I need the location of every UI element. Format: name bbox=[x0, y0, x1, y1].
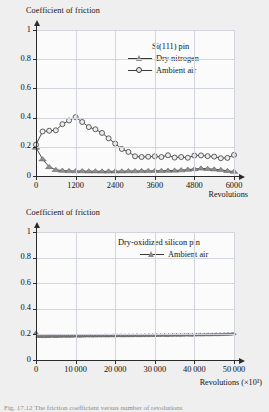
gridline-vertical bbox=[76, 232, 77, 360]
x-axis-tick bbox=[155, 361, 156, 364]
y-axis-tick bbox=[33, 309, 36, 310]
data-point-marker-circle bbox=[106, 136, 111, 141]
data-point-marker-circle bbox=[166, 153, 171, 158]
x-axis-line bbox=[36, 360, 240, 361]
gridline-vertical bbox=[115, 30, 116, 176]
data-point-marker-circle bbox=[100, 130, 105, 135]
y-axis-tick-label: 0.2 bbox=[6, 141, 31, 150]
y-axis-tick-label: 0.4 bbox=[6, 112, 31, 121]
y-axis-arrow-icon bbox=[34, 20, 40, 26]
gridline-vertical bbox=[115, 232, 116, 360]
data-point-marker-circle bbox=[225, 155, 230, 160]
data-point-marker-circle bbox=[212, 154, 217, 159]
gridline-horizontal bbox=[36, 334, 234, 335]
data-point-marker-triangle bbox=[39, 157, 47, 161]
gridline-vertical bbox=[155, 232, 156, 360]
x-axis-tick-label: 30 000 bbox=[143, 365, 166, 374]
y-axis-tick-label: 0.8 bbox=[6, 54, 31, 63]
x-axis-tick bbox=[76, 361, 77, 364]
gridline-horizontal bbox=[36, 232, 234, 233]
y-axis-tick-label: 0.6 bbox=[6, 278, 31, 287]
bottom-chart-legend-title: Dry-oxidized silicon pin bbox=[118, 238, 200, 247]
bottom-chart-panel: Coefficient of friction Dry-oxidized sil… bbox=[0, 202, 269, 392]
x-axis-tick-label: 40 000 bbox=[183, 365, 206, 374]
y-axis-tick bbox=[33, 283, 36, 284]
x-axis-tick bbox=[194, 177, 195, 180]
data-point-marker-triangle bbox=[52, 167, 60, 171]
y-axis-tick bbox=[33, 59, 36, 60]
data-point-marker-circle bbox=[40, 129, 45, 134]
series-line-dry-nitrogen bbox=[36, 148, 234, 172]
x-axis-arrow-icon bbox=[239, 174, 245, 180]
x-axis-tick-label: 10 000 bbox=[64, 365, 87, 374]
top-chart-x-axis-title: Revolutions bbox=[0, 190, 248, 199]
data-point-marker-circle bbox=[80, 119, 85, 124]
y-axis-tick-label: 1 bbox=[6, 227, 31, 236]
x-axis-tick-label: 2400 bbox=[107, 181, 124, 190]
x-axis-tick-label: 50 000 bbox=[223, 365, 246, 374]
x-axis-tick-label: 0 bbox=[34, 181, 38, 190]
x-axis-tick bbox=[36, 177, 37, 180]
y-axis-tick bbox=[33, 147, 36, 148]
data-point-marker-circle bbox=[86, 125, 91, 130]
data-point-marker-circle bbox=[185, 155, 190, 160]
top-chart-legend-title: Si(111) pin bbox=[152, 42, 189, 51]
top-chart-legend-label-1: Ambient air bbox=[156, 66, 196, 75]
data-point-marker-circle bbox=[47, 128, 52, 133]
data-point-marker-circle bbox=[53, 128, 58, 133]
data-point-marker-circle bbox=[205, 154, 210, 159]
gridline-vertical bbox=[194, 232, 195, 360]
bottom-chart-svg bbox=[0, 202, 269, 392]
y-axis-line bbox=[36, 228, 37, 360]
x-axis-line bbox=[36, 176, 240, 177]
gridline-vertical bbox=[234, 30, 235, 176]
gridline-horizontal bbox=[36, 30, 234, 31]
x-axis-tick-label: 1200 bbox=[67, 181, 84, 190]
y-axis-tick-label: 0.2 bbox=[6, 329, 31, 338]
data-point-marker-circle bbox=[159, 155, 164, 160]
x-axis-tick bbox=[115, 177, 116, 180]
y-axis-arrow-icon bbox=[34, 222, 40, 228]
gridline-vertical bbox=[155, 30, 156, 176]
y-axis-tick-label: 0.6 bbox=[6, 83, 31, 92]
series-line-ambient-air bbox=[36, 117, 234, 158]
x-axis-tick bbox=[115, 361, 116, 364]
y-axis-tick bbox=[33, 232, 36, 233]
y-axis-tick bbox=[33, 334, 36, 335]
y-axis-tick-label: 0.4 bbox=[6, 303, 31, 312]
data-point-marker-circle bbox=[139, 155, 144, 160]
gridline-horizontal bbox=[36, 59, 234, 60]
y-axis-tick-label: 0.8 bbox=[6, 252, 31, 261]
gridline-horizontal bbox=[36, 258, 234, 259]
x-axis-tick-label: 3600 bbox=[146, 181, 163, 190]
y-axis-tick bbox=[33, 30, 36, 31]
gridline-horizontal bbox=[36, 309, 234, 310]
gridline-horizontal bbox=[36, 147, 234, 148]
y-axis-tick-label: 0 bbox=[6, 355, 31, 364]
x-axis-tick-label: 6000 bbox=[226, 181, 243, 190]
x-axis-tick-label: 20 000 bbox=[104, 365, 127, 374]
data-point-marker-circle bbox=[179, 155, 184, 160]
data-point-marker-circle bbox=[218, 156, 223, 161]
y-axis-tick-label: 0 bbox=[6, 171, 31, 180]
figure-caption: Fig. 17.12 The friction coefficient vers… bbox=[4, 404, 266, 412]
data-point-marker-circle bbox=[133, 154, 138, 159]
x-axis-arrow-icon bbox=[239, 358, 245, 364]
x-axis-tick bbox=[76, 177, 77, 180]
y-axis-tick-label: 1 bbox=[6, 25, 31, 34]
data-point-marker-triangle bbox=[45, 164, 53, 168]
y-axis-tick bbox=[33, 258, 36, 259]
x-axis-tick bbox=[36, 361, 37, 364]
gridline-horizontal bbox=[36, 88, 234, 89]
data-point-marker-triangle bbox=[197, 166, 205, 170]
data-point-marker-circle bbox=[93, 127, 98, 132]
data-point-marker-circle bbox=[126, 149, 131, 154]
data-point-marker-circle bbox=[172, 155, 177, 160]
gridline-vertical bbox=[194, 30, 195, 176]
gridline-vertical bbox=[234, 232, 235, 360]
gridline-horizontal bbox=[36, 118, 234, 119]
gridline-horizontal bbox=[36, 283, 234, 284]
y-axis-tick bbox=[33, 88, 36, 89]
top-chart-panel: Coefficient of friction Si(111) pin Dry … bbox=[0, 0, 269, 202]
